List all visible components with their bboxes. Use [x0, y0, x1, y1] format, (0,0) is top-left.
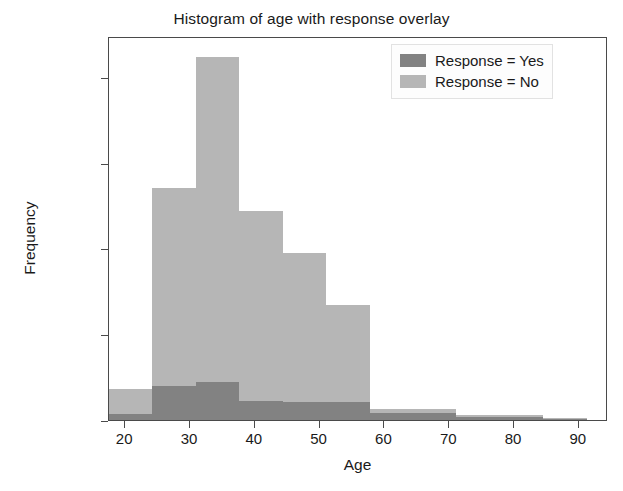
legend: Response = YesResponse = No: [391, 44, 553, 99]
y-tick-mark: [101, 335, 108, 336]
legend-swatch-icon: [400, 54, 426, 67]
histogram-bar: [413, 413, 456, 420]
y-tick-mark: [101, 249, 108, 250]
x-tick-label: 70: [418, 430, 478, 447]
histogram-bar: [152, 386, 195, 420]
x-tick-label: 40: [224, 430, 284, 447]
histogram-bar: [370, 413, 413, 420]
x-tick-label: 60: [353, 430, 413, 447]
x-tick-mark: [448, 421, 449, 428]
legend-label: Response = No: [435, 73, 539, 90]
histogram-bar: [326, 402, 369, 420]
y-axis-label: Frequency: [21, 138, 39, 338]
x-tick-label: 90: [548, 430, 608, 447]
x-tick-mark: [254, 421, 255, 428]
histogram-bar: [109, 414, 152, 420]
histogram-bar: [196, 382, 239, 420]
legend-item[interactable]: Response = No: [400, 71, 544, 92]
x-tick-mark: [189, 421, 190, 428]
y-tick-mark: [101, 78, 108, 79]
x-tick-label: 30: [159, 430, 219, 447]
x-tick-mark: [513, 421, 514, 428]
histogram-bar: [543, 419, 586, 420]
legend-item[interactable]: Response = Yes: [400, 50, 544, 71]
histogram-figure: Histogram of age with response overlay F…: [0, 0, 623, 491]
legend-label: Response = Yes: [435, 52, 544, 69]
histogram-bar: [239, 401, 282, 420]
y-tick-mark: [101, 164, 108, 165]
x-tick-mark: [319, 421, 320, 428]
x-tick-mark: [578, 421, 579, 428]
x-tick-mark: [383, 421, 384, 428]
x-tick-label: 50: [289, 430, 349, 447]
legend-swatch-icon: [400, 75, 426, 88]
chart-title: Histogram of age with response overlay: [0, 10, 623, 28]
x-axis-label: Age: [108, 456, 607, 474]
x-tick-mark: [124, 421, 125, 428]
histogram-bar: [500, 417, 543, 420]
y-tick-mark: [101, 421, 108, 422]
histogram-bar: [283, 402, 326, 420]
x-tick-label: 20: [94, 430, 154, 447]
x-tick-label: 80: [483, 430, 543, 447]
histogram-bar: [456, 417, 499, 420]
